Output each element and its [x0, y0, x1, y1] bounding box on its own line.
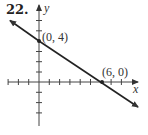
point-0-4 — [37, 39, 41, 43]
label-point-b: (6, 0) — [102, 65, 128, 79]
y-axis-label: y — [43, 1, 50, 15]
x-axis-label: x — [132, 82, 139, 96]
label-point-a: (0, 4) — [42, 30, 68, 44]
graph: (0, 4) (6, 0) x y — [0, 0, 148, 135]
point-6-0 — [100, 80, 104, 84]
graph-line — [10, 21, 39, 42]
